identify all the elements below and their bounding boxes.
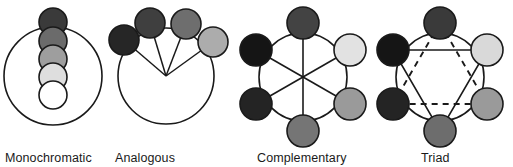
scheme-monochromatic: Monochromatic — [4, 8, 102, 165]
swatch-lower-right — [471, 88, 503, 120]
swatch-bottom — [287, 115, 319, 147]
swatch-2 — [135, 8, 165, 38]
swatch-top — [424, 7, 456, 39]
swatch-lower-right — [334, 88, 366, 120]
color-schemes-figure: Monochromatic Analogous — [0, 0, 513, 167]
swatch-lower-left — [240, 88, 272, 120]
swatch-upper-right — [471, 34, 503, 66]
swatch-upper-left — [240, 34, 272, 66]
swatch-1 — [109, 25, 139, 55]
swatch-group-monochromatic — [39, 8, 67, 109]
swatch-upper-right — [334, 34, 366, 66]
swatch-lower-left — [377, 88, 409, 120]
swatch-top — [287, 7, 319, 39]
swatch-5 — [39, 81, 67, 109]
scheme-label-analogous: Analogous — [115, 151, 175, 165]
scheme-label-triad: Triad — [421, 151, 450, 165]
scheme-triad: Triad — [377, 7, 503, 165]
color-schemes-diagram: Monochromatic Analogous — [0, 0, 513, 167]
scheme-label-complementary: Complementary — [257, 151, 347, 165]
swatch-4 — [198, 27, 228, 57]
swatch-3 — [171, 9, 201, 39]
swatch-bottom — [424, 115, 456, 147]
swatch-upper-left — [377, 34, 409, 66]
scheme-analogous: Analogous — [109, 8, 228, 165]
scheme-label-monochromatic: Monochromatic — [5, 151, 92, 165]
scheme-complementary: Complementary — [240, 7, 366, 165]
